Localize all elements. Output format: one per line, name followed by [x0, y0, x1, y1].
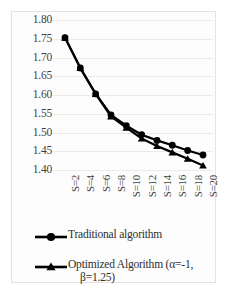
- legend-label-optimized-line1: Optimized Algorithm (α=-1,: [68, 258, 193, 270]
- x-axis-tick-label: S=10: [130, 175, 142, 223]
- y-axis-tick-label: 1.70: [33, 52, 52, 63]
- chart-legend: Traditional algorithm Optimized Algorith…: [12, 228, 217, 294]
- legend-label-optimized: Optimized Algorithm (α=-1, β=1.25): [68, 258, 193, 284]
- y-axis-tick-label: 1.65: [33, 70, 52, 81]
- legend-entry-optimized: Optimized Algorithm (α=-1, β=1.25): [12, 258, 217, 284]
- x-axis-tick-label: S=2: [69, 175, 81, 223]
- x-axis-tick-label: S=12: [146, 175, 158, 223]
- circle-marker-icon: [34, 230, 68, 244]
- y-axis-tick-label: 1.80: [33, 14, 52, 25]
- y-axis-tick-label: 1.55: [33, 108, 52, 119]
- series-group: [53, 12, 213, 177]
- legend-entry-traditional: Traditional algorithm: [12, 228, 217, 244]
- x-axis-tick-label: S=18: [192, 175, 204, 223]
- x-axis-tick-label: S=8: [115, 175, 127, 223]
- x-axis-tick-label: S=16: [176, 175, 188, 223]
- data-point-circle: [169, 142, 176, 149]
- y-axis-tick-label: 1.50: [33, 127, 52, 138]
- x-axis-tick-label: S=20: [207, 175, 219, 223]
- triangle-marker-icon: [34, 260, 68, 274]
- y-axis-tick-label: 1.45: [33, 145, 52, 156]
- x-axis-labels: S=2S=4S=6S=8S=10S=12S=14S=16S=18S=20: [53, 177, 213, 225]
- series-canvas: [53, 12, 213, 177]
- x-axis-tick-label: S=14: [161, 175, 173, 223]
- x-axis-tick-label: S=6: [100, 175, 112, 223]
- x-axis-tick-label: S=4: [84, 175, 96, 223]
- chart-frame: 1.801.751.701.651.601.551.501.451.40 S=2…: [11, 11, 216, 283]
- y-axis-tick-label: 1.60: [33, 89, 52, 100]
- data-point-circle: [184, 147, 191, 154]
- legend-label-traditional: Traditional algorithm: [68, 228, 162, 241]
- y-axis-tick-label: 1.75: [33, 33, 52, 44]
- y-axis-tick-label: 1.40: [33, 164, 52, 175]
- y-axis-labels: 1.801.751.701.651.601.551.501.451.40: [16, 12, 52, 177]
- legend-label-optimized-line2: β=1.25): [68, 271, 193, 284]
- series-line: [65, 38, 203, 155]
- data-point-circle: [200, 152, 207, 159]
- series-line: [65, 38, 203, 166]
- plot-area: 1.801.751.701.651.601.551.501.451.40: [12, 12, 217, 177]
